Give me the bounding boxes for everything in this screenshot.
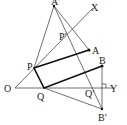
- point-B-prime: [101, 108, 103, 110]
- reflection-diagram: A′ X P′ A P B O Q Q′ Y B′: [0, 0, 127, 125]
- label-Q: Q: [37, 91, 45, 102]
- label-P: P: [27, 61, 33, 72]
- label-Q-prime: Q′: [85, 88, 94, 99]
- label-X: X: [91, 2, 99, 13]
- ray-OX: [15, 8, 93, 88]
- label-B: B: [99, 55, 106, 66]
- label-Y: Y: [110, 83, 117, 94]
- label-A-prime: A′: [51, 0, 60, 7]
- point-A: [88, 49, 91, 52]
- label-P-prime: P′: [59, 31, 67, 42]
- right-angle-mark: [102, 84, 106, 88]
- segment-A-prime-B-prime: [54, 6, 102, 109]
- label-O: O: [4, 83, 11, 94]
- label-B-prime: B′: [98, 112, 107, 123]
